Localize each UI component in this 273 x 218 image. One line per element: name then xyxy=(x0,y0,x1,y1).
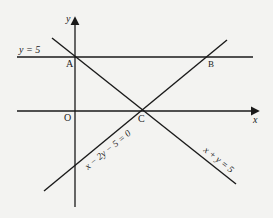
point-c-label: C xyxy=(138,113,145,124)
y-axis-label: y xyxy=(65,13,71,24)
x-axis-label: x xyxy=(252,114,258,125)
coordinate-diagram: y x O A B C y = 5 x + y = 5 x − 2y − 5 =… xyxy=(0,0,273,218)
origin-label: O xyxy=(64,112,71,123)
point-a-label: A xyxy=(66,58,74,69)
equation-label-x-minus-2y-minus-5: x − 2y − 5 = 0 xyxy=(82,128,133,172)
diagram-canvas: y x O A B C y = 5 x + y = 5 x − 2y − 5 =… xyxy=(0,0,273,218)
point-b-label: B xyxy=(208,59,214,69)
equation-label-y-equals-5: y = 5 xyxy=(18,44,40,55)
